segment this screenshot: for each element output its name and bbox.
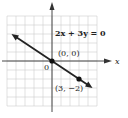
y-axis-arrow-icon <box>50 2 55 10</box>
equation-label: 2x + 3y = 0 <box>55 28 106 38</box>
origin-label: 0 <box>44 63 49 72</box>
x-axis-arrow-icon <box>104 59 112 64</box>
point-label-3-neg2: (3, −2) <box>55 84 83 93</box>
x-axis-label: x <box>115 57 120 66</box>
graph: x 0 2x + 3y = 0 (0, 0) (3, −2) <box>0 0 128 118</box>
point-label-origin: (0, 0) <box>58 49 80 58</box>
data-point <box>76 76 81 81</box>
axes <box>2 2 112 112</box>
data-point <box>49 58 54 63</box>
